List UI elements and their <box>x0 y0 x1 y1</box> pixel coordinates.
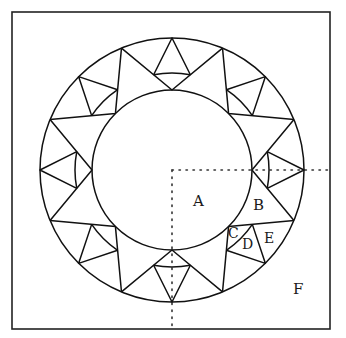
small-triangle <box>40 152 77 189</box>
middle-arc <box>154 265 191 267</box>
small-triangle <box>79 224 118 263</box>
middle-arc <box>75 152 77 189</box>
middle-arc <box>154 73 191 75</box>
label-a: A <box>192 192 204 210</box>
middle-arc <box>92 224 118 250</box>
label-e: E <box>264 230 274 246</box>
label-d: D <box>242 236 253 252</box>
ring-spoke-pair <box>121 250 222 292</box>
ring-spoke-pair <box>50 119 92 220</box>
small-triangle <box>154 38 191 75</box>
square-frame <box>12 12 330 329</box>
ring-spoke-pair <box>50 48 121 119</box>
ring-spoke-pair <box>50 221 121 292</box>
region-labels: A B C D E F <box>192 192 303 298</box>
diagram-canvas: A B C D E F <box>0 0 346 338</box>
ring-spoke-pair <box>121 48 222 90</box>
ring-spoke-pair <box>223 48 294 119</box>
middle-arc <box>92 90 118 116</box>
middle-arc <box>267 152 269 189</box>
compass-ring-diagram: A B C D E F <box>0 0 346 338</box>
label-b: B <box>253 196 264 214</box>
label-c: C <box>228 225 239 241</box>
small-triangle <box>226 77 265 116</box>
label-f: F <box>293 280 303 298</box>
middle-arc <box>226 90 252 116</box>
small-triangle <box>79 77 118 116</box>
